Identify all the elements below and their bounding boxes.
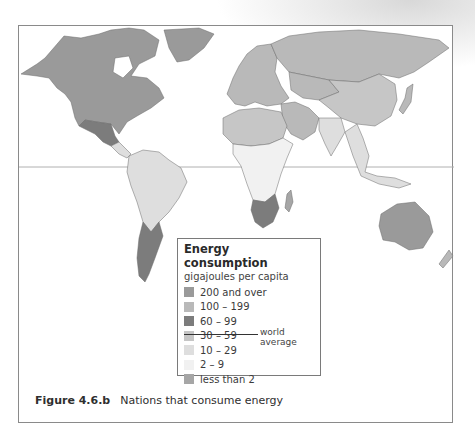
legend-swatch [184, 374, 194, 384]
legend-label: 60 – 99 [200, 316, 237, 327]
region-india [319, 118, 345, 156]
region-new-zealand [439, 250, 453, 268]
map-legend: Energy consumption gigajoules per capita… [177, 238, 321, 376]
legend-label: 2 – 9 [200, 359, 224, 370]
legend-title: Energy consumption [184, 242, 314, 270]
region-middle-east [281, 102, 319, 140]
world-average-label: world average [260, 327, 320, 347]
figure-frame: Energy consumption gigajoules per capita… [18, 25, 453, 423]
region-argentina [137, 222, 163, 282]
figure-caption: Figure 4.6.bNations that consume energy [35, 394, 283, 407]
legend-label: 200 and over [200, 287, 267, 298]
legend-swatch [184, 287, 194, 297]
region-southeast-asia [345, 124, 411, 188]
legend-swatch [184, 316, 194, 326]
region-north-america [21, 28, 164, 134]
figure-title: Nations that consume energy [120, 394, 283, 407]
region-central-africa [233, 138, 293, 202]
legend-swatch [184, 360, 194, 370]
world-average-line [184, 334, 258, 335]
legend-unit: gigajoules per capita [184, 270, 314, 284]
legend-label: less than 2 [200, 374, 255, 385]
region-australia [379, 202, 433, 250]
legend-swatch [184, 331, 194, 341]
legend-label: 100 – 199 [200, 301, 250, 312]
legend-label: 30 – 59 [200, 330, 237, 341]
legend-item: 200 and over [184, 285, 314, 300]
region-south-america-north [127, 150, 187, 232]
region-madagascar [285, 190, 293, 212]
legend-swatch [184, 345, 194, 355]
legend-swatch [184, 302, 194, 312]
legend-item: 100 – 199 [184, 300, 314, 315]
region-central-america [111, 142, 131, 158]
region-greenland [164, 28, 214, 62]
legend-item: less than 2 [184, 372, 314, 387]
region-japan [399, 84, 413, 114]
figure-number: Figure 4.6.b [35, 394, 110, 407]
legend-item: 2 – 9 [184, 358, 314, 373]
legend-label: 10 – 29 [200, 345, 237, 356]
